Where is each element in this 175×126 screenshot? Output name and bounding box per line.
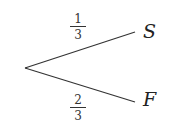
outcome-label-upper: S (143, 20, 156, 42)
probability-tree-diagram: 1 3 S 2 3 F (0, 0, 175, 126)
denominator: 3 (68, 29, 88, 41)
numerator: 2 (68, 94, 88, 106)
outcome-label-lower: F (143, 88, 156, 110)
fraction-bar (70, 26, 86, 27)
probability-label-lower: 2 3 (68, 94, 88, 122)
denominator: 3 (68, 110, 88, 122)
probability-label-upper: 1 3 (68, 13, 88, 41)
numerator: 1 (68, 13, 88, 25)
fraction-bar (70, 107, 86, 108)
